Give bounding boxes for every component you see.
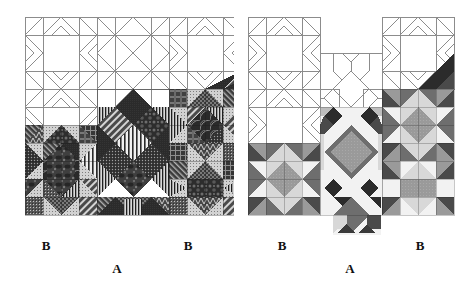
fabric-sliver-right-top <box>205 71 234 89</box>
quilt-diagram-right <box>234 0 468 235</box>
label-b-left-r: B <box>270 239 294 252</box>
fabric-block-center-bottom <box>97 89 169 215</box>
label-b-left: B <box>34 239 58 252</box>
pieced-area-right <box>248 53 454 235</box>
quilt-diagram-left <box>0 0 234 235</box>
quilt-panel-left: B B A <box>0 0 234 291</box>
pieced-area-left <box>25 71 234 215</box>
figure-root: B B A <box>0 0 468 291</box>
label-a: A <box>105 262 129 275</box>
fabric-block-right-lower <box>169 161 234 215</box>
block-outline-tl-r <box>248 17 320 89</box>
quilt-canvas-left <box>0 0 234 235</box>
block-outline-tr <box>169 17 234 89</box>
quilt-canvas-right <box>234 0 468 235</box>
label-a-r: A <box>338 262 362 275</box>
block-outline-tl <box>25 17 97 89</box>
quilt-panel-right: B B A <box>234 0 468 291</box>
label-b-right-r: B <box>408 239 432 252</box>
block-outline-center-top <box>97 17 169 89</box>
label-b-right: B <box>176 239 200 252</box>
